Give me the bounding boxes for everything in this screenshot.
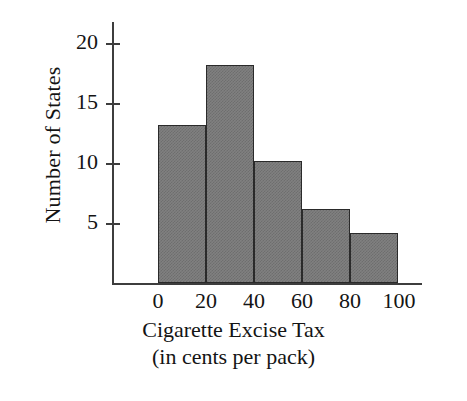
bar-bin-20-40 (206, 65, 254, 283)
y-tick-label-10: 10 (76, 151, 98, 173)
y-tick-label-5: 5 (87, 211, 98, 233)
bar-bin-40-60 (254, 161, 302, 283)
x-axis-title: Cigarette Excise Tax (in cents per pack) (0, 316, 467, 370)
y-tick-label-20: 20 (76, 31, 98, 53)
x-axis-title-line-1: Cigarette Excise Tax (0, 316, 467, 343)
x-tick-label-100: 100 (383, 290, 416, 312)
x-tick-label-40: 40 (243, 290, 265, 312)
x-tick-label-0: 0 (153, 290, 164, 312)
x-axis-title-line-2: (in cents per pack) (0, 343, 467, 370)
y-tick-5: 5 (106, 223, 120, 225)
bar-bin-0-20 (158, 125, 206, 283)
plot-area: 20 15 10 5 0 20 40 60 80 100 (112, 22, 422, 285)
x-tick-label-80: 80 (339, 290, 361, 312)
histogram-figure: Number of States 20 15 10 5 0 20 40 60 8… (0, 0, 467, 401)
bar-bin-80-100 (350, 233, 398, 283)
y-axis-title: Number of States (40, 25, 66, 265)
y-tick-15: 15 (106, 103, 120, 105)
x-tick-label-20: 20 (195, 290, 217, 312)
bar-bin-60-80 (302, 209, 350, 283)
y-axis-line (112, 22, 114, 285)
y-tick-20: 20 (106, 43, 120, 45)
x-axis-line (112, 283, 422, 285)
y-tick-label-15: 15 (76, 91, 98, 113)
x-tick-label-60: 60 (291, 290, 313, 312)
y-tick-10: 10 (106, 163, 120, 165)
